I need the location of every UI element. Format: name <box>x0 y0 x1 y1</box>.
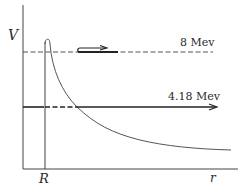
level-8mev-label: 8 Mev <box>180 37 214 48</box>
level-418mev-label: 4.18 Mev <box>168 91 220 102</box>
y-axis-label: V <box>8 28 18 42</box>
potential-diagram: V r R 8 Mev 4.18 Mev <box>0 0 247 192</box>
radius-marker-label: R <box>39 172 49 185</box>
x-axis-label: r <box>210 172 216 184</box>
